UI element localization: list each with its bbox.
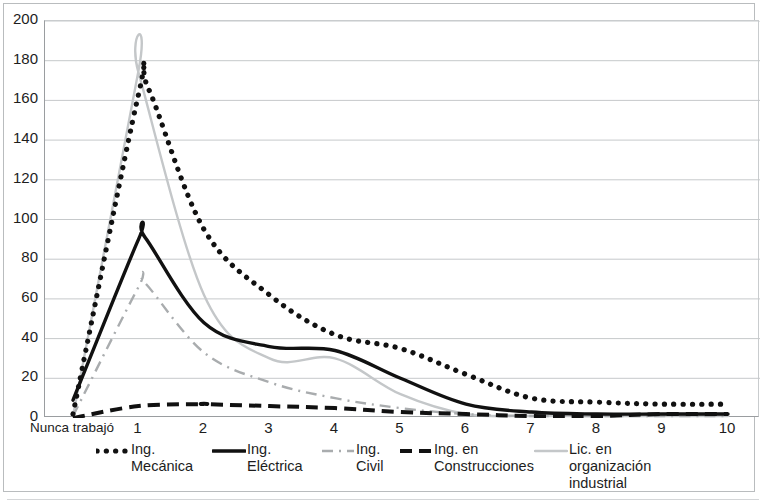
legend-label: Lic. en organización industrial [569, 441, 651, 492]
y-tick-label: 180 [4, 51, 38, 66]
x-tick-label: 5 [395, 419, 403, 437]
y-tick-label: 120 [4, 170, 38, 185]
legend-label: Ing. Mecánica [131, 441, 193, 475]
x-axis-tick-labels: Nunca trabajó12345678910 [4, 419, 763, 441]
y-tick-label: 160 [4, 90, 38, 105]
x-tick-label: 9 [657, 419, 665, 437]
plot-area [44, 20, 759, 417]
dash-dot-line-key [321, 443, 355, 459]
series-line-ing-en-construcciones [73, 404, 728, 418]
y-tick-label: 80 [4, 249, 38, 264]
figure-frame: 020406080100120140160180200 Nunca trabaj… [3, 3, 755, 492]
x-tick-label: 6 [461, 419, 469, 437]
chart-legend: Ing. MecánicaIng. EléctricaIng. CivilIng… [44, 441, 759, 499]
legend-key-glyph [399, 443, 433, 459]
y-tick-label: 60 [4, 289, 38, 304]
x-tick-label: 10 [719, 419, 736, 437]
x-tick-label: 2 [199, 419, 207, 437]
y-tick-label: 40 [4, 329, 38, 344]
legend-label: Ing. Eléctrica [247, 441, 303, 475]
x-tick-label: Nunca trabajó [30, 419, 114, 437]
y-tick-label: 200 [4, 11, 38, 26]
legend-label: Ing. en Construcciones [434, 441, 534, 475]
x-tick-label: 3 [264, 419, 272, 437]
dashed-line-key [399, 443, 433, 459]
x-tick-label: 1 [133, 419, 141, 437]
y-axis-tick-labels: 020406080100120140160180200 [4, 4, 44, 417]
series-line-ing-mec-nica [73, 61, 728, 414]
light-solid-line-key [534, 443, 568, 459]
y-tick-label: 20 [4, 368, 38, 383]
legend-item[interactable]: Ing. Eléctrica [212, 441, 303, 475]
x-tick-label: 4 [330, 419, 338, 437]
legend-key-glyph [96, 443, 130, 459]
y-tick-label: 140 [4, 130, 38, 145]
legend-item[interactable]: Ing. en Construcciones [399, 441, 534, 475]
x-tick-label: 7 [526, 419, 534, 437]
legend-item[interactable]: Ing. Civil [321, 441, 383, 475]
legend-key-glyph [321, 443, 355, 459]
series-line-lic-en-organizaci-n-industrial [73, 34, 728, 416]
legend-label: Ing. Civil [356, 441, 383, 475]
dotted-line-key [96, 443, 130, 459]
legend-item[interactable]: Ing. Mecánica [96, 441, 193, 475]
x-tick-label: 8 [592, 419, 600, 437]
legend-key-glyph [534, 443, 568, 459]
legend-item[interactable]: Lic. en organización industrial [534, 441, 651, 492]
y-tick-label: 100 [4, 210, 38, 225]
solid-line-key [212, 443, 246, 459]
legend-key-glyph [212, 443, 246, 459]
plot-svg [45, 21, 760, 418]
